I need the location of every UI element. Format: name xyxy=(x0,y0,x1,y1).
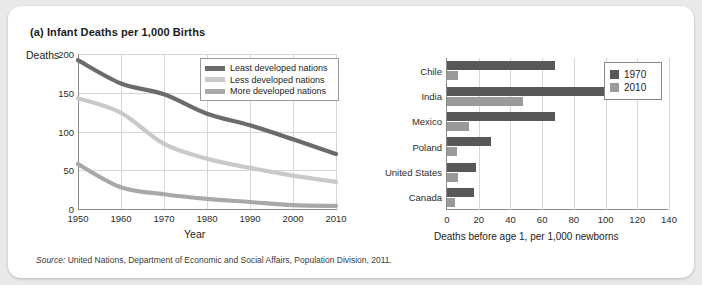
panel-a-x-tick-label: 1980 xyxy=(196,213,217,224)
panel-b-x-tick-label: 120 xyxy=(629,214,645,225)
source-text: United Nations, Department of Economic a… xyxy=(65,255,392,265)
chart-panel-a: (a) Infant Deaths per 1,000 Births Death… xyxy=(8,6,368,278)
chart-panel-b: (b) Infant Mortality Rates: 1970 and 201… xyxy=(368,6,694,278)
panel-a-y-tick-label: 100 xyxy=(58,126,74,137)
legend-label-more-developed: More developed nations xyxy=(230,86,326,96)
panel-b-legend: 1970 2010 xyxy=(604,62,662,100)
panel-b-x-tick-label: 60 xyxy=(537,214,548,225)
panel-b-bar-2010 xyxy=(447,71,458,80)
panel-b-gridline-vertical xyxy=(479,58,480,210)
panel-b-bar-1970 xyxy=(447,112,555,121)
panel-b-category-label: Canada xyxy=(409,192,442,203)
panel-b-gridline-vertical xyxy=(542,58,543,210)
panel-a-legend: Least developed nations Less developed n… xyxy=(200,58,339,101)
legend-label-2010: 2010 xyxy=(624,82,646,93)
panel-b-x-tick-label: 100 xyxy=(598,214,614,225)
legend-swatch-1970 xyxy=(610,70,619,79)
panel-a-x-tick-label: 1970 xyxy=(153,213,174,224)
panel-a-x-tick-label: 2010 xyxy=(325,213,346,224)
legend-label-less-developed: Less developed nations xyxy=(230,75,325,85)
legend-swatch-least-developed xyxy=(205,66,225,71)
panel-a-x-tick-label: 1950 xyxy=(67,213,88,224)
panel-a-x-axis-title: Year xyxy=(184,228,205,240)
panel-a-title: (a) Infant Deaths per 1,000 Births xyxy=(30,26,205,38)
panel-b-gridline-vertical xyxy=(574,58,575,210)
panel-a-x-axis-line xyxy=(78,209,337,210)
panel-a-y-tick-label: 50 xyxy=(63,165,74,176)
panel-b-bar-2010 xyxy=(447,97,523,106)
panel-b-bar-1970 xyxy=(447,61,555,70)
panel-b-x-tick-label: 80 xyxy=(569,214,580,225)
panel-b-x-tick-label: 40 xyxy=(505,214,516,225)
figure-card: (a) Infant Deaths per 1,000 Births Death… xyxy=(8,6,694,278)
panel-b-bar-2010 xyxy=(447,122,469,131)
legend-label-1970: 1970 xyxy=(624,69,646,80)
panel-b-bar-1970 xyxy=(447,188,474,197)
panel-b-x-axis-title: Deaths before age 1, per 1,000 newborns xyxy=(434,231,619,242)
panel-b-bar-2010 xyxy=(447,173,458,182)
panel-b-bar-1970 xyxy=(447,137,491,146)
legend-label-least-developed: Least developed nations xyxy=(230,63,328,73)
panel-a-y-tick-label: 200 xyxy=(58,49,74,60)
panel-b-category-label: India xyxy=(421,91,442,102)
legend-swatch-less-developed xyxy=(205,77,225,82)
panel-b-bar-2010 xyxy=(447,198,455,207)
source-label: Source: xyxy=(36,255,65,265)
panel-b-bar-2010 xyxy=(447,147,457,156)
legend-item-more-developed: More developed nations xyxy=(205,86,334,97)
panel-b-category-label: United States xyxy=(385,167,442,178)
legend-item-2010: 2010 xyxy=(610,82,656,93)
panel-b-bar-1970 xyxy=(447,163,476,172)
panel-a-y-tick-label: 0 xyxy=(69,204,74,215)
panel-a-x-tick-label: 1990 xyxy=(239,213,260,224)
panel-b-gridline-vertical xyxy=(510,58,511,210)
panel-b-category-label: Chile xyxy=(420,65,442,76)
legend-item-less-developed: Less developed nations xyxy=(205,74,334,85)
legend-swatch-2010 xyxy=(610,83,619,92)
legend-swatch-more-developed xyxy=(205,89,225,94)
panel-b-category-label: Mexico xyxy=(412,116,442,127)
panel-b-x-tick-label: 140 xyxy=(661,214,677,225)
panel-a-y-axis-title: Deaths xyxy=(26,49,59,61)
legend-item-least-developed: Least developed nations xyxy=(205,63,334,74)
panel-a-x-tick-label: 2000 xyxy=(282,213,303,224)
legend-item-1970: 1970 xyxy=(610,69,656,80)
panel-b-category-label: Poland xyxy=(412,141,442,152)
panel-a-line-more-developed xyxy=(78,164,336,206)
panel-b-gridline-vertical xyxy=(669,58,670,210)
panel-b-x-tick-label: 20 xyxy=(473,214,484,225)
panel-b-x-tick-label: 0 xyxy=(444,214,449,225)
panel-a-y-tick-label: 150 xyxy=(58,87,74,98)
panel-a-x-tick-label: 1960 xyxy=(110,213,131,224)
source-note: Source: United Nations, Department of Ec… xyxy=(36,255,392,265)
